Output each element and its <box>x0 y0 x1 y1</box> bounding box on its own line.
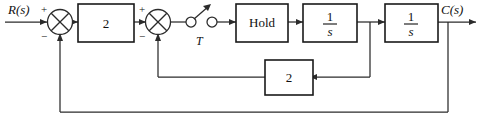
integrator-1-numerator: 1 <box>327 9 334 24</box>
block-gain-feedback-inner-label: 2 <box>286 70 293 85</box>
output-signal-label: C(s) <box>441 2 463 17</box>
sampler-contact-right <box>207 17 217 27</box>
input-signal-label: R(s) <box>7 2 30 17</box>
sum2-plus-sign: + <box>139 3 145 15</box>
arrowhead-output <box>469 19 476 25</box>
integrator-1-denominator: s <box>327 24 332 39</box>
block-gain-forward-label: 2 <box>103 16 110 31</box>
arrowhead-integrator2-input <box>378 19 385 25</box>
sampler-period-label: T <box>196 34 204 48</box>
arrowhead-hold-input <box>229 19 236 25</box>
sum1-minus-sign: − <box>41 30 47 42</box>
arrowhead-integrator1-input <box>296 19 303 25</box>
block-diagram-canvas: + − 2 + − T Hold 1 s 1 s 2 R(s) <box>0 0 482 129</box>
block-diagram-svg: + − 2 + − T Hold 1 s 1 s 2 R(s) <box>0 0 482 129</box>
sum1-plus-sign: + <box>41 3 47 15</box>
block-hold-label: Hold <box>249 15 276 30</box>
integrator-2-denominator: s <box>408 24 413 39</box>
arrowhead-sum1-input <box>40 19 47 25</box>
sum2-minus-sign: − <box>139 30 145 42</box>
integrator-2-numerator: 1 <box>408 9 415 24</box>
